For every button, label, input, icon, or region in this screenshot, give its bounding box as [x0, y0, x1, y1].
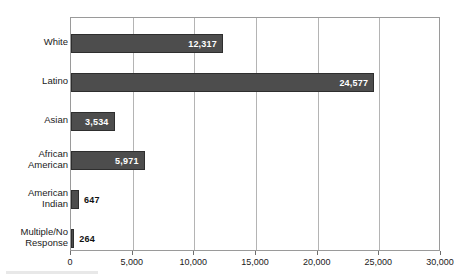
x-tick-label: 30,000 [426, 257, 454, 267]
category-label: White [2, 37, 68, 48]
x-tick-label: 5,000 [120, 257, 143, 267]
value-axis: 05,00010,00015,00020,00025,00030,000 [70, 251, 440, 275]
category-label: American Indian [2, 188, 68, 209]
bar-value-label: 3,534 [85, 117, 109, 127]
x-tick-label: 20,000 [303, 257, 331, 267]
x-tick-label: 15,000 [241, 257, 269, 267]
x-tick-mark [70, 251, 71, 255]
gridline-20000 [318, 18, 319, 250]
x-tick-mark [378, 251, 379, 255]
bar-chart: WhiteLatinoAsianAfrican AmericanAmerican… [0, 0, 469, 279]
x-tick-mark [193, 251, 194, 255]
x-tick-label: 25,000 [365, 257, 393, 267]
bar-value-label: 24,577 [339, 78, 368, 88]
category-axis-labels: WhiteLatinoAsianAfrican AmericanAmerican… [0, 17, 68, 251]
x-tick-label: 0 [67, 257, 72, 267]
bar-value-label: 5,971 [115, 156, 139, 166]
category-label: Multiple/No Response [2, 227, 68, 248]
bar: 12,317 [71, 34, 223, 53]
bar [71, 190, 79, 209]
category-label: Asian [2, 115, 68, 126]
bar-value-label: 647 [84, 195, 100, 205]
bar: 3,534 [71, 112, 115, 131]
x-tick-mark [255, 251, 256, 255]
gridline-25000 [379, 18, 380, 250]
scan-artifact [6, 271, 98, 274]
x-tick-mark [440, 251, 441, 255]
x-tick-mark [132, 251, 133, 255]
bar: 24,577 [71, 73, 374, 92]
x-tick-mark [317, 251, 318, 255]
category-label: African American [2, 149, 68, 170]
bar [71, 229, 74, 248]
bar: 5,971 [71, 151, 145, 170]
category-label: Latino [2, 76, 68, 87]
plot-area: 12,31724,5773,5345,971647264 [70, 17, 440, 251]
x-tick-label: 10,000 [180, 257, 208, 267]
bar-value-label: 12,317 [188, 39, 217, 49]
gridline-15000 [256, 18, 257, 250]
bar-value-label: 264 [79, 234, 95, 244]
